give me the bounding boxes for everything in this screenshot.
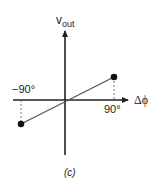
y-axis-label-sub: out: [62, 19, 75, 29]
left-endpoint: [18, 121, 25, 128]
x-axis-label: Δϕ: [134, 94, 148, 106]
figure-caption: (c): [64, 168, 76, 178]
left-tick-label: −90°: [12, 84, 35, 95]
right-endpoint: [111, 74, 118, 81]
right-tick-label: 90°: [104, 104, 121, 115]
y-axis-label: vout: [56, 14, 75, 29]
